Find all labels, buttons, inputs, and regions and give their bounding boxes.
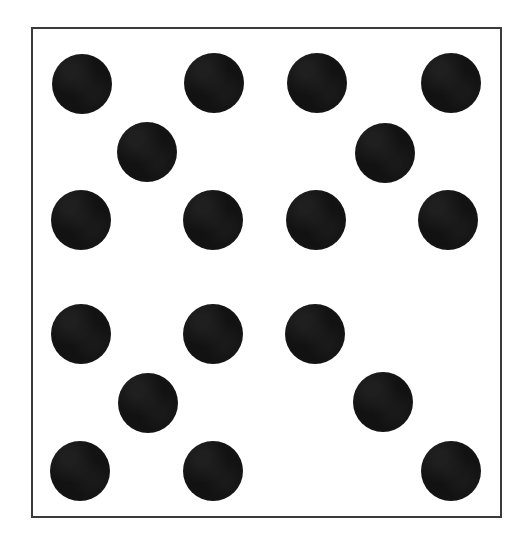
dot-marker — [52, 54, 112, 114]
dot-marker — [183, 304, 243, 364]
dot-marker — [355, 123, 415, 183]
dot-marker — [353, 372, 413, 432]
figure-canvas: Scattered Dot Pattern — [0, 0, 523, 556]
dot-marker — [286, 190, 346, 250]
dot-marker — [421, 53, 481, 113]
dot-marker — [50, 441, 110, 501]
dot-marker — [51, 304, 111, 364]
dot-marker — [117, 122, 177, 182]
dot-marker — [287, 53, 347, 113]
dot-marker — [184, 53, 244, 113]
dot-marker — [118, 373, 178, 433]
dot-marker — [421, 441, 481, 501]
rectangular-border — [31, 27, 502, 518]
dot-marker — [285, 304, 345, 364]
dot-marker — [183, 441, 243, 501]
dot-marker — [51, 190, 111, 250]
dot-marker — [183, 190, 243, 250]
dot-marker — [418, 190, 478, 250]
